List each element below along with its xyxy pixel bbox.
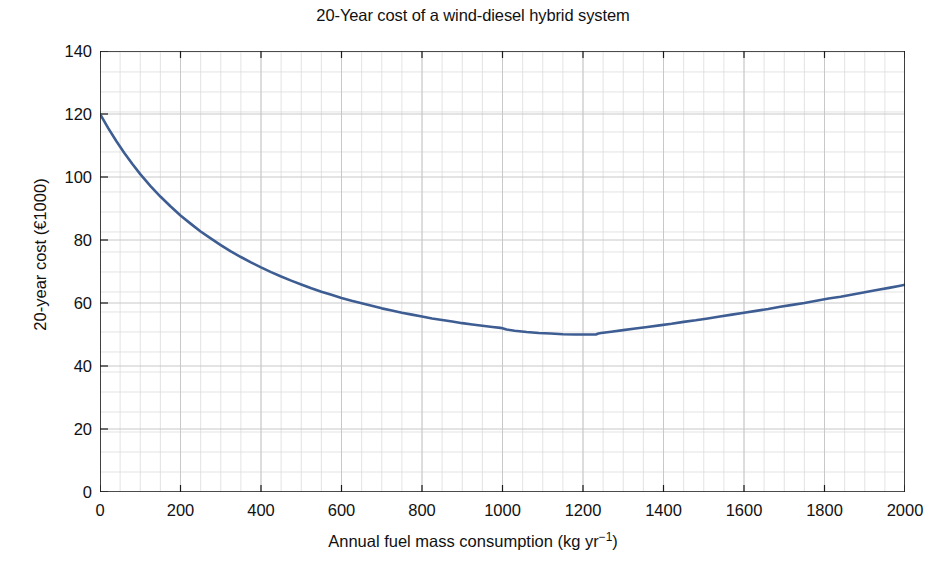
x-tick-label: 0 xyxy=(60,502,140,518)
x-tick-label: 1400 xyxy=(624,502,704,518)
y-axis-label-wrapper: 20-year cost (€1000) xyxy=(31,35,50,475)
x-axis-label-tail: ) xyxy=(612,532,618,550)
x-axis-label: Annual fuel mass consumption (kg yr−1) xyxy=(0,532,946,551)
x-tick-label: 1000 xyxy=(463,502,543,518)
x-tick-label: 600 xyxy=(302,502,382,518)
x-tick-label: 400 xyxy=(221,502,301,518)
x-tick-label: 1800 xyxy=(785,502,865,518)
x-tick-label: 2000 xyxy=(865,502,945,518)
plot-area xyxy=(100,51,905,492)
x-axis-tick-labels: 0200400600800100012001400160018002000 xyxy=(0,502,946,528)
plot-svg xyxy=(100,51,905,492)
chart-figure: 20-Year cost of a wind-diesel hybrid sys… xyxy=(0,0,946,570)
x-axis-label-exponent: −1 xyxy=(599,530,613,544)
x-tick-label: 1200 xyxy=(543,502,623,518)
x-tick-label: 800 xyxy=(382,502,462,518)
x-tick-label: 1600 xyxy=(704,502,784,518)
x-tick-label: 200 xyxy=(141,502,221,518)
chart-title: 20-Year cost of a wind-diesel hybrid sys… xyxy=(0,6,946,25)
y-tick-label: 0 xyxy=(34,484,92,500)
x-axis-label-base: Annual fuel mass consumption (kg yr xyxy=(328,532,599,550)
y-axis-label: 20-year cost (€1000) xyxy=(31,178,50,330)
